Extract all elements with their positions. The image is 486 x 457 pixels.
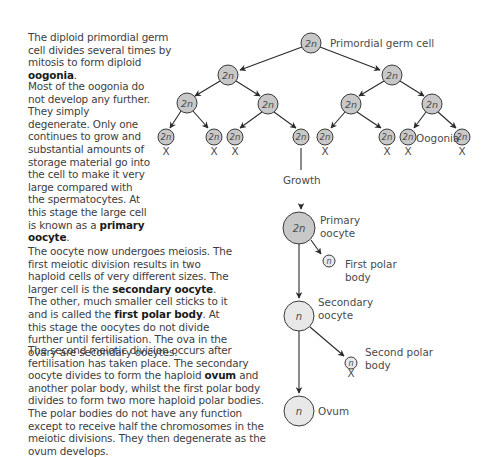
ploidy-label: 2n <box>305 38 317 49</box>
label-growth: Growth <box>283 174 321 186</box>
label-second-polar-body: Second polar <box>365 346 434 358</box>
degenerate-x-icon: X <box>210 145 217 157</box>
ploidy-label: 2n <box>293 223 306 234</box>
ploidy-label: 2n <box>426 99 438 110</box>
ploidy-label: 2n <box>209 132 220 142</box>
label-primordial-germ-cell: Primordial germ cell <box>330 37 434 49</box>
ploidy-label: n <box>348 359 353 368</box>
ploidy-label: 2n <box>345 99 357 110</box>
label-first-polar-body: body <box>345 271 371 283</box>
ploidy-label: n <box>296 406 302 417</box>
label-primary-oocyte: Primary <box>320 214 360 226</box>
ploidy-label: 2n <box>262 99 274 110</box>
ploidy-label: 2n <box>403 132 414 142</box>
ploidy-label: 2n <box>386 70 398 81</box>
label-secondary-oocyte: oocyte <box>318 309 353 321</box>
degenerate-x-icon: X <box>231 145 238 157</box>
ploidy-label: 2n <box>222 70 234 81</box>
label-oogonia: Oogonia <box>416 132 459 144</box>
ploidy-label: n <box>326 257 331 266</box>
degenerate-x-icon: X <box>458 145 465 157</box>
label-secondary-oocyte: Secondary <box>318 296 373 308</box>
ploidy-label: 2n <box>161 132 172 142</box>
ploidy-label: 2n <box>382 132 393 142</box>
degenerate-x-icon: X <box>162 145 169 157</box>
degenerate-x-icon: X <box>404 145 411 157</box>
label-first-polar-body: First polar <box>345 258 397 270</box>
ploidy-label: 2n <box>230 132 241 142</box>
degenerate-x-icon: X <box>383 145 390 157</box>
label-primary-oocyte: oocyte <box>320 227 355 239</box>
degenerate-x-icon: X <box>321 145 328 157</box>
ploidy-label: n <box>296 311 302 322</box>
ploidy-label: 2n <box>320 132 331 142</box>
ploidy-label: 2n <box>181 98 193 109</box>
ploidy-label: 2n <box>296 132 307 142</box>
label-second-polar-body: body <box>365 359 391 371</box>
label-ovum: Ovum <box>318 405 349 417</box>
